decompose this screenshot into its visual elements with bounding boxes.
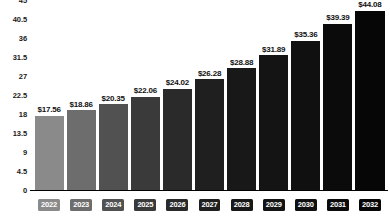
y-axis-tick-label: 4.5 — [17, 167, 27, 176]
x-axis-category-label[interactable]: 2027 — [199, 199, 221, 211]
bar-series: $17.56$18.86$20.35$22.06$24.02$26.28$28.… — [33, 0, 386, 190]
x-axis-category-label[interactable]: 2032 — [359, 199, 381, 211]
bar-rect[interactable] — [131, 97, 160, 190]
bar-column[interactable]: $18.86 — [67, 0, 96, 190]
bar-value-label: $39.39 — [326, 13, 349, 22]
x-axis-column: 2027 — [195, 196, 224, 214]
bar-rect[interactable] — [67, 110, 96, 190]
bar-rect[interactable] — [291, 41, 320, 190]
x-axis-column: 2022 — [35, 196, 64, 214]
x-axis-column: 2023 — [67, 196, 96, 214]
bar-value-label: $44.08 — [358, 0, 381, 9]
x-axis-category-label[interactable]: 2031 — [327, 199, 349, 211]
y-axis-tick-label: 27 — [19, 72, 27, 81]
y-axis-tick-label: 0 — [23, 186, 27, 195]
bar-column[interactable]: $22.06 — [131, 0, 160, 190]
bar-value-label: $22.06 — [134, 86, 157, 95]
bar-rect[interactable] — [323, 24, 352, 190]
bar-chart: 04.5913.51822.52731.53640.545 $17.56$18.… — [0, 0, 390, 221]
x-axis-category-label[interactable]: 2028 — [231, 199, 253, 211]
x-axis-column: 2029 — [259, 196, 288, 214]
y-axis-tick-label: 13.5 — [13, 129, 27, 138]
x-axis: 2022202320242025202620272028202920302031… — [33, 196, 386, 214]
x-axis-category-label[interactable]: 2025 — [134, 199, 156, 211]
y-axis-tick-label: 18 — [19, 110, 27, 119]
y-axis-tick-label: 31.5 — [13, 53, 27, 62]
bar-column[interactable]: $31.89 — [259, 0, 288, 190]
bar-column[interactable]: $39.39 — [323, 0, 352, 190]
x-axis-category-label[interactable]: 2024 — [102, 199, 124, 211]
x-axis-column: 2024 — [99, 196, 128, 214]
y-axis-tick-label: 36 — [19, 34, 27, 43]
bar-column[interactable]: $28.88 — [227, 0, 256, 190]
y-axis: 04.5913.51822.52731.53640.545 — [0, 0, 30, 191]
x-axis-category-label[interactable]: 2029 — [263, 199, 285, 211]
bar-rect[interactable] — [163, 89, 192, 190]
x-axis-column: 2030 — [291, 196, 320, 214]
plot-area: $17.56$18.86$20.35$22.06$24.02$26.28$28.… — [33, 0, 386, 190]
y-axis-tick-label: 40.5 — [13, 15, 27, 24]
bar-value-label: $28.88 — [230, 58, 253, 67]
bar-rect[interactable] — [259, 55, 288, 190]
bar-rect[interactable] — [195, 79, 224, 190]
x-axis-column: 2032 — [355, 196, 384, 214]
x-axis-column: 2026 — [163, 196, 192, 214]
x-axis-category-label[interactable]: 2026 — [166, 199, 188, 211]
x-axis-category-label[interactable]: 2022 — [38, 199, 60, 211]
y-axis-tick-label: 9 — [23, 148, 27, 157]
bar-column[interactable]: $44.08 — [355, 0, 384, 190]
bar-rect[interactable] — [227, 68, 256, 190]
bar-rect[interactable] — [355, 11, 384, 191]
bar-column[interactable]: $26.28 — [195, 0, 224, 190]
bar-value-label: $35.36 — [294, 30, 317, 39]
bar-column[interactable]: $20.35 — [99, 0, 128, 190]
bar-rect[interactable] — [99, 104, 128, 190]
bar-column[interactable]: $35.36 — [291, 0, 320, 190]
bar-value-label: $17.56 — [37, 105, 60, 114]
x-axis-column: 2028 — [227, 196, 256, 214]
bar-value-label: $26.28 — [198, 69, 221, 78]
bar-column[interactable]: $24.02 — [163, 0, 192, 190]
x-axis-column: 2025 — [131, 196, 160, 214]
y-axis-tick-label: 45 — [19, 0, 27, 5]
bar-value-label: $18.86 — [70, 100, 93, 109]
x-axis-category-label[interactable]: 2030 — [295, 199, 317, 211]
y-axis-tick-label: 22.5 — [13, 91, 27, 100]
bar-value-label: $24.02 — [166, 78, 189, 87]
bar-rect[interactable] — [35, 116, 64, 190]
x-axis-category-label[interactable]: 2023 — [70, 199, 92, 211]
x-axis-line — [30, 190, 388, 191]
bar-value-label: $20.35 — [102, 94, 125, 103]
x-axis-column: 2031 — [323, 196, 352, 214]
bar-value-label: $31.89 — [262, 45, 285, 54]
bar-column[interactable]: $17.56 — [35, 0, 64, 190]
